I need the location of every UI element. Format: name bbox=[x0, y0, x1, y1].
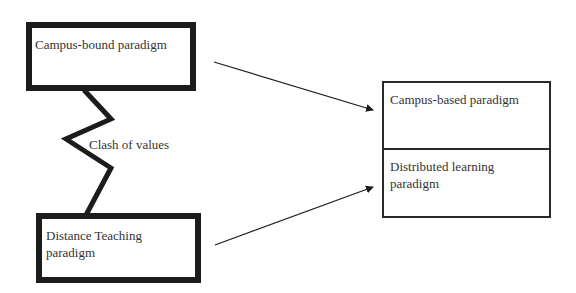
group-divider bbox=[384, 148, 549, 150]
distributed-learning-label-line1: Distributed learning bbox=[390, 159, 494, 175]
arrow-distance-to-distributed bbox=[215, 187, 373, 245]
campus-bound-label: Campus-bound paradigm bbox=[35, 37, 167, 53]
campus-bound-box: Campus-bound paradigm bbox=[26, 22, 196, 91]
distance-teaching-label-line1: Distance Teaching bbox=[46, 228, 142, 244]
distributed-learning-label-line2: paradigm bbox=[390, 176, 439, 192]
right-paradigm-group-box: Campus-based paradigm Distributed learni… bbox=[382, 81, 551, 218]
arrow-campus-bound-to-campus-based bbox=[214, 62, 373, 110]
campus-based-label: Campus-based paradigm bbox=[390, 92, 519, 108]
distance-teaching-label-line2: paradigm bbox=[46, 245, 95, 261]
distance-teaching-box: Distance Teaching paradigm bbox=[36, 213, 201, 283]
clash-of-values-label: Clash of values bbox=[89, 137, 169, 153]
